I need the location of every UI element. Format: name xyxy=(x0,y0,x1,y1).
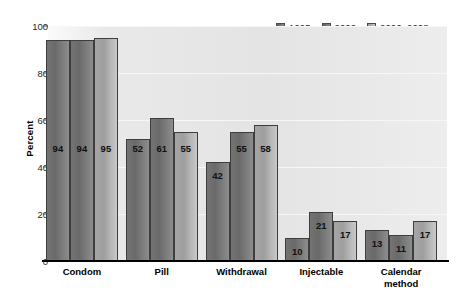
bar-group-4: 131117 xyxy=(365,26,437,261)
bar[interactable]: 52 xyxy=(126,139,150,261)
bar[interactable]: 10 xyxy=(285,238,309,262)
y-tick-label: 80 xyxy=(2,68,48,79)
bar-value-label: 21 xyxy=(316,221,327,231)
y-tick-label: 20 xyxy=(2,209,48,220)
bar-value-label: 17 xyxy=(420,230,431,240)
bar-value-label: 94 xyxy=(77,144,88,154)
bar[interactable]: 17 xyxy=(333,221,357,261)
bar[interactable]: 55 xyxy=(230,132,254,261)
bar-value-label: 94 xyxy=(53,144,64,154)
bar[interactable]: 95 xyxy=(94,38,118,261)
bar[interactable]: 17 xyxy=(413,221,437,261)
y-tick-label: 60 xyxy=(2,115,48,126)
bar[interactable]: 58 xyxy=(254,125,278,261)
x-axis-line xyxy=(42,260,449,262)
bar-value-label: 42 xyxy=(212,171,223,181)
bar-value-label: 95 xyxy=(101,144,112,154)
y-tick-label: 100 xyxy=(2,21,48,32)
bar[interactable]: 61 xyxy=(150,118,174,261)
bar[interactable]: 21 xyxy=(309,212,333,261)
y-axis: 020406080100 xyxy=(0,26,48,261)
bar[interactable]: 94 xyxy=(46,40,70,261)
bar-value-label: 55 xyxy=(236,144,247,154)
plot-area: 949495526155425558102117131117 xyxy=(48,26,447,261)
bar-value-label: 17 xyxy=(340,230,351,240)
bar[interactable]: 94 xyxy=(70,40,94,261)
bar-group-1: 526155 xyxy=(126,26,198,261)
y-tick-label: 40 xyxy=(2,162,48,173)
bar-value-label: 11 xyxy=(396,244,406,254)
x-tick-label: Injectable xyxy=(299,266,343,278)
bar-group-3: 102117 xyxy=(285,26,357,261)
bar-value-label: 55 xyxy=(180,144,191,154)
bar-group-0: 949495 xyxy=(46,26,118,261)
bar-value-label: 10 xyxy=(292,247,303,257)
x-tick-label: Calendar method xyxy=(381,266,422,290)
x-axis-labels: CondomPillWithdrawalInjectableCalendar m… xyxy=(48,266,447,304)
bar[interactable]: 42 xyxy=(206,162,230,261)
bar-value-label: 13 xyxy=(372,239,383,249)
bar[interactable]: 13 xyxy=(365,230,389,261)
x-tick-label: Withdrawal xyxy=(216,266,267,278)
bar-group-2: 425558 xyxy=(206,26,278,261)
bar-value-label: 52 xyxy=(132,144,143,154)
bar[interactable]: 11 xyxy=(389,235,413,261)
bar[interactable]: 55 xyxy=(174,132,198,261)
x-tick-label: Pill xyxy=(155,266,169,278)
bar-value-label: 58 xyxy=(260,144,271,154)
x-tick-label: Condom xyxy=(63,266,102,278)
bar-chart: 199520022006–2008 Percent 020406080100 9… xyxy=(0,0,461,305)
bar-value-label: 61 xyxy=(156,144,167,154)
